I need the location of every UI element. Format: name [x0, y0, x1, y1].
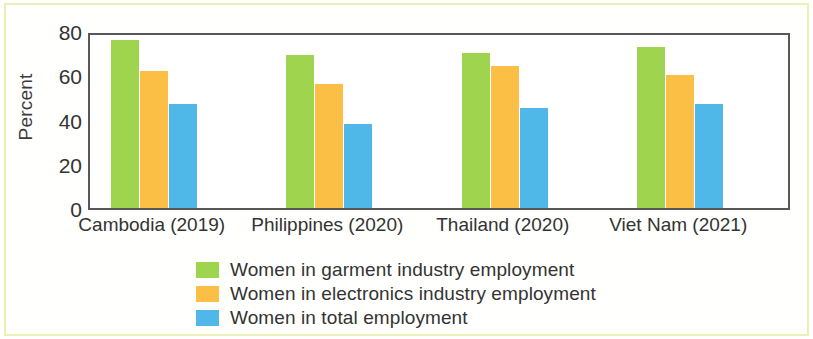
bar[interactable]	[637, 47, 665, 209]
bar[interactable]	[315, 84, 343, 208]
legend-item[interactable]: Women in garment industry employment	[196, 258, 596, 282]
x-tick-label: Philippines (2020)	[227, 214, 427, 236]
chart-figure: Percent 806040200 Cambodia (2019)Philipp…	[0, 0, 813, 339]
x-tick-label: Viet Nam (2021)	[578, 214, 778, 236]
plot-area	[88, 33, 790, 210]
bar[interactable]	[111, 40, 139, 208]
legend-label: Women in electronics industry employment	[230, 283, 596, 305]
legend-swatch-icon	[196, 286, 219, 302]
x-tick-label: Thailand (2020)	[403, 214, 603, 236]
y-tick-label-60: 60	[40, 66, 82, 87]
bar[interactable]	[140, 71, 168, 208]
bar[interactable]	[520, 108, 548, 208]
y-tick-label-80: 80	[40, 22, 82, 43]
legend-swatch-icon	[196, 310, 219, 326]
bar-group	[462, 35, 548, 208]
y-tick-label-20: 20	[40, 155, 82, 176]
bar-group	[111, 35, 197, 208]
legend-swatch-icon	[196, 262, 219, 278]
chart-legend: Women in garment industry employmentWome…	[196, 258, 596, 330]
bar[interactable]	[666, 75, 694, 208]
bars-container	[90, 35, 788, 208]
bar-group	[286, 35, 372, 208]
bar[interactable]	[491, 66, 519, 208]
legend-item[interactable]: Women in total employment	[196, 306, 596, 330]
y-tick-label-40: 40	[40, 111, 82, 132]
bar[interactable]	[462, 53, 490, 208]
y-axis-tick-labels: 806040200	[30, 0, 82, 339]
legend-label: Women in total employment	[230, 307, 468, 329]
legend-label: Women in garment industry employment	[230, 259, 574, 281]
legend-item[interactable]: Women in electronics industry employment	[196, 282, 596, 306]
bar[interactable]	[169, 104, 197, 208]
grouped-bar-chart: Percent 806040200 Cambodia (2019)Philipp…	[0, 0, 813, 339]
bar[interactable]	[344, 124, 372, 208]
x-tick-label: Cambodia (2019)	[52, 214, 252, 236]
bar[interactable]	[695, 104, 723, 208]
bar[interactable]	[286, 55, 314, 208]
bar-group	[637, 35, 723, 208]
